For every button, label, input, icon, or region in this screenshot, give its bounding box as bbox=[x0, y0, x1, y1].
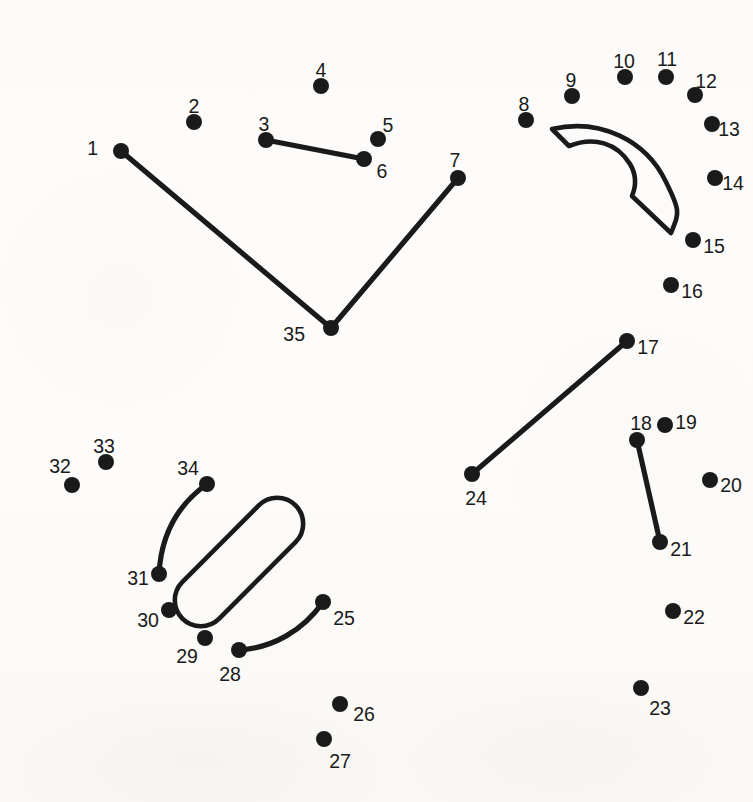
dot-label-33: 33 bbox=[93, 435, 115, 457]
dot-32[interactable] bbox=[64, 477, 80, 493]
dot-label-7: 7 bbox=[450, 149, 461, 171]
stroke-18-21 bbox=[637, 440, 660, 542]
dot-19[interactable] bbox=[657, 417, 673, 433]
dot-label-13: 13 bbox=[718, 118, 740, 140]
dot-label-34: 34 bbox=[177, 457, 199, 479]
dot-11[interactable] bbox=[658, 69, 674, 85]
dot-15[interactable] bbox=[685, 232, 701, 248]
numbered-dots-layer bbox=[64, 69, 723, 747]
dot-7[interactable] bbox=[450, 170, 466, 186]
dot-label-19: 19 bbox=[675, 411, 697, 433]
puzzle-drawing-canvas: 1234567891011121314151617181920212223242… bbox=[0, 0, 753, 802]
stroke-28-25-curve bbox=[239, 602, 323, 650]
stroke-3-6 bbox=[266, 140, 364, 159]
dot-29[interactable] bbox=[197, 630, 213, 646]
dot-label-4: 4 bbox=[316, 59, 327, 81]
dot-label-3: 3 bbox=[259, 113, 270, 135]
dot-23[interactable] bbox=[633, 680, 649, 696]
dot-label-27: 27 bbox=[329, 750, 351, 772]
dot-16[interactable] bbox=[663, 277, 679, 293]
dot-label-32: 32 bbox=[49, 455, 71, 477]
dot-label-31: 31 bbox=[127, 567, 149, 589]
dot-label-10: 10 bbox=[613, 50, 635, 72]
dot-14[interactable] bbox=[707, 170, 723, 186]
dot-label-6: 6 bbox=[377, 160, 388, 182]
dot-30[interactable] bbox=[161, 602, 177, 618]
dot-35[interactable] bbox=[323, 320, 339, 336]
dot-24[interactable] bbox=[464, 466, 480, 482]
dot-label-15: 15 bbox=[703, 235, 725, 257]
dot-28[interactable] bbox=[231, 642, 247, 658]
dot-18[interactable] bbox=[629, 432, 645, 448]
dot-26[interactable] bbox=[332, 696, 348, 712]
dot-label-20: 20 bbox=[720, 474, 742, 496]
dot-label-30: 30 bbox=[137, 609, 159, 631]
dot-label-8: 8 bbox=[519, 93, 530, 115]
dot-label-12: 12 bbox=[695, 70, 717, 92]
shape-outlines-layer bbox=[164, 126, 677, 637]
annulus-wedge-shape bbox=[552, 126, 677, 233]
dot-label-16: 16 bbox=[681, 280, 703, 302]
stadium-pill-shape bbox=[164, 487, 314, 637]
dot-label-26: 26 bbox=[353, 703, 375, 725]
dot-label-17: 17 bbox=[637, 336, 659, 358]
dot-31[interactable] bbox=[151, 566, 167, 582]
dot-25[interactable] bbox=[315, 594, 331, 610]
dot-label-24: 24 bbox=[465, 487, 487, 509]
dot-20[interactable] bbox=[702, 472, 718, 488]
connect-the-dots-puzzle-page: 1234567891011121314151617181920212223242… bbox=[0, 0, 753, 802]
dot-17[interactable] bbox=[619, 333, 635, 349]
stroke-17-24 bbox=[472, 341, 627, 474]
dot-label-22: 22 bbox=[683, 606, 705, 628]
dot-label-9: 9 bbox=[566, 69, 577, 91]
dot-6[interactable] bbox=[356, 151, 372, 167]
dot-label-11: 11 bbox=[657, 48, 677, 70]
dot-label-23: 23 bbox=[649, 697, 671, 719]
connected-strokes-layer bbox=[121, 140, 660, 650]
dot-label-18: 18 bbox=[630, 412, 652, 434]
dot-label-1: 1 bbox=[87, 137, 98, 159]
dot-label-35: 35 bbox=[283, 323, 305, 345]
dot-label-5: 5 bbox=[383, 114, 394, 136]
dot-label-21: 21 bbox=[670, 538, 692, 560]
dot-label-14: 14 bbox=[722, 172, 744, 194]
dot-label-29: 29 bbox=[176, 645, 198, 667]
dot-1[interactable] bbox=[113, 143, 129, 159]
stroke-1-35-7-vee bbox=[121, 151, 458, 328]
dot-21[interactable] bbox=[652, 534, 668, 550]
dot-label-2: 2 bbox=[189, 95, 200, 117]
dot-label-28: 28 bbox=[219, 663, 241, 685]
dot-34[interactable] bbox=[199, 476, 215, 492]
dot-22[interactable] bbox=[665, 603, 681, 619]
dot-27[interactable] bbox=[316, 731, 332, 747]
stroke-31-34-curve bbox=[159, 484, 207, 574]
dot-number-labels-layer: 1234567891011121314151617181920212223242… bbox=[49, 48, 744, 772]
dot-label-25: 25 bbox=[333, 607, 355, 629]
